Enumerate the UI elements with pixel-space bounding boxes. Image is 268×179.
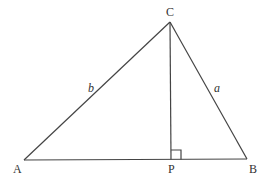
- side-ab: [24, 159, 247, 160]
- vertex-label-c: C: [166, 5, 174, 19]
- vertex-label-a: A: [13, 162, 22, 176]
- side-ac: [24, 22, 170, 160]
- side-label-b: b: [88, 81, 94, 95]
- right-angle-marker: [171, 150, 181, 160]
- vertex-label-b: B: [249, 162, 257, 176]
- vertex-label-p: P: [168, 162, 175, 176]
- side-bc: [170, 22, 247, 159]
- triangle-diagram: C A P B b a: [0, 0, 268, 179]
- side-label-a: a: [214, 81, 220, 95]
- altitude-cp: [170, 22, 171, 160]
